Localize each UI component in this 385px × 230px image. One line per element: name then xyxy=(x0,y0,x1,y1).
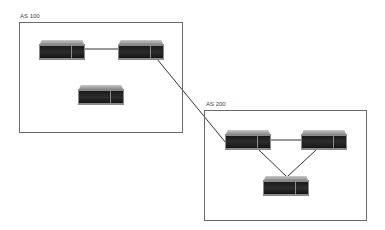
router-panel xyxy=(258,136,270,148)
router-icon-r6 xyxy=(263,176,309,196)
router-icon-r4 xyxy=(225,130,271,150)
router-panel xyxy=(151,46,163,58)
router-icon-r2 xyxy=(118,40,164,60)
as-100-box xyxy=(19,22,183,133)
router-panel xyxy=(226,136,257,148)
router-panel xyxy=(334,136,346,148)
router-panel xyxy=(264,182,295,194)
as-200-label: AS 200 xyxy=(206,101,226,107)
as-100-label: AS 100 xyxy=(20,13,40,19)
router-body xyxy=(39,44,85,60)
router-body xyxy=(225,134,271,150)
router-panel xyxy=(40,46,71,58)
router-body xyxy=(118,44,164,60)
router-icon-r3 xyxy=(78,85,124,105)
router-body xyxy=(263,180,309,196)
router-panel xyxy=(302,136,333,148)
router-body xyxy=(301,134,347,150)
router-icon-r5 xyxy=(301,130,347,150)
router-panel xyxy=(72,46,84,58)
router-body xyxy=(78,89,124,105)
router-icon-r1 xyxy=(39,40,85,60)
as-200-box xyxy=(204,110,367,221)
router-panel xyxy=(79,91,110,103)
router-panel xyxy=(296,182,308,194)
router-panel xyxy=(119,46,150,58)
router-panel xyxy=(111,91,123,103)
